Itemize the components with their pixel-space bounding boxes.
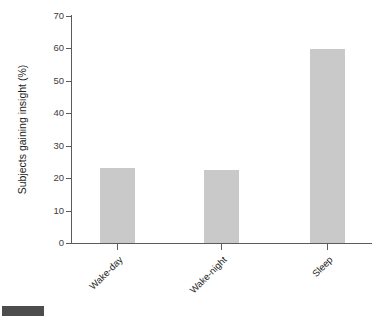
y-axis-tick-mark [66, 16, 72, 17]
y-axis-tick-mark [66, 178, 72, 179]
y-axis-tick-mark [66, 146, 72, 147]
bar-sleep [310, 49, 345, 243]
y-axis-tick-mark [66, 243, 72, 244]
y-axis-tick-label: 40 [42, 109, 64, 119]
y-axis-tick-mark [66, 211, 72, 212]
bar-wake-night [204, 170, 239, 243]
y-axis-tick-label: 50 [42, 76, 64, 86]
y-axis-tick-label: 0 [42, 238, 64, 248]
y-axis-tick-label: 60 [42, 44, 64, 54]
y-axis-tick-label: 20 [42, 173, 64, 183]
y-axis-title: Subjects gaining insight (%) [16, 16, 32, 243]
y-axis-tick-mark [66, 113, 72, 114]
bar-chart-figure: Subjects gaining insight (%) 01020304050… [0, 0, 380, 316]
x-axis-tick-mark [327, 244, 328, 250]
x-axis-tick-mark [221, 244, 222, 250]
figure-number-badge [2, 306, 44, 316]
y-axis-tick-label: 30 [42, 141, 64, 151]
y-axis-tick-mark [66, 48, 72, 49]
bar-wake-day [100, 168, 135, 243]
y-axis-tick-label: 70 [42, 11, 64, 21]
caption-strip [0, 300, 380, 316]
x-axis-tick-mark [117, 244, 118, 250]
y-axis-tick-mark [66, 81, 72, 82]
y-axis-tick-label: 10 [42, 206, 64, 216]
